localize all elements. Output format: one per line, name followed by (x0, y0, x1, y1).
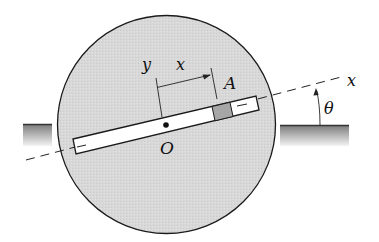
label-o: O (160, 138, 174, 158)
label-y: y (141, 55, 152, 74)
label-theta: θ (324, 99, 334, 118)
point-o (163, 122, 169, 128)
theta-angle-arrow (313, 88, 320, 125)
label-x-axis: x (347, 71, 356, 90)
ground-right (280, 125, 349, 146)
label-a: A (222, 73, 236, 93)
ground-left (23, 124, 52, 146)
label-x-dimension: x (176, 55, 185, 74)
diagram-canvas: y x A O x θ (0, 0, 379, 242)
